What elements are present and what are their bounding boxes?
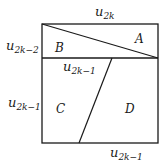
label-left-upper: u2k−2 bbox=[6, 38, 39, 55]
label-top: u2k bbox=[95, 4, 115, 21]
region-c-label: C bbox=[56, 102, 65, 116]
partition-diagram: u2k u2k−2 u2k−1 u2k−1 u2k−1 A B C D bbox=[0, 0, 166, 165]
region-a-label: A bbox=[134, 32, 144, 46]
region-b-label: B bbox=[54, 41, 64, 55]
label-middle: u2k−1 bbox=[63, 59, 96, 76]
region-d-label: D bbox=[124, 102, 135, 116]
label-left-lower: u2k−1 bbox=[8, 95, 41, 112]
label-bottom: u2k−1 bbox=[110, 145, 143, 162]
